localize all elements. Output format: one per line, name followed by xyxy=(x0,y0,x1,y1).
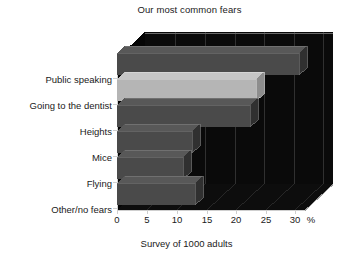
x-tick-label: 30 xyxy=(290,214,301,225)
x-tick-label: 20 xyxy=(231,214,242,225)
x-tick-label: 10 xyxy=(172,214,183,225)
x-axis-tick-labels: 0 5 10 15 20 25 30 % xyxy=(0,214,351,228)
bar-heights xyxy=(117,98,258,127)
bar-flying xyxy=(117,150,191,179)
bar-public-speaking xyxy=(117,46,307,75)
x-tick-label: 15 xyxy=(202,214,213,225)
x-tick-label: 0 xyxy=(114,214,119,225)
x-axis-unit-label: % xyxy=(307,214,315,225)
bar-mice xyxy=(117,124,200,153)
x-tick-label: 25 xyxy=(261,214,272,225)
x-axis-caption: Survey of 1000 adults xyxy=(0,238,351,249)
y-axis-ticks xyxy=(113,78,117,208)
chart-figure: Our most common fears Public speaking Go… xyxy=(0,0,351,259)
bar-other-no-fears xyxy=(117,176,203,205)
x-tick-label: 5 xyxy=(144,214,149,225)
bar-going-to-the-dentist xyxy=(117,72,264,101)
